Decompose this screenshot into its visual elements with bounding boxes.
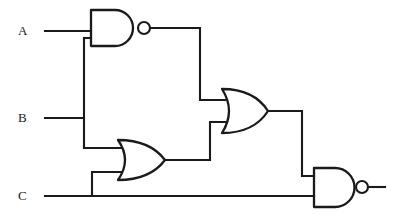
input-label-b: B (18, 111, 27, 124)
nand-gate-1-inversion-bubble (138, 22, 150, 34)
or1-out-wire (165, 122, 226, 160)
input-label-a: A (18, 24, 28, 37)
or-gate-2-body (222, 89, 268, 133)
nand1-out-wire (150, 28, 225, 100)
or-gate-1-body (118, 140, 165, 180)
or2-out-wire (268, 111, 314, 176)
c-to-or1-wire (92, 172, 122, 196)
circuit-schematic-svg (0, 0, 401, 219)
nand-gate-2-inversion-bubble (356, 181, 368, 193)
nand-gate-2-body (314, 168, 355, 207)
logic-circuit-diagram: A B C (0, 0, 401, 219)
nand-gate-1-body (91, 10, 133, 46)
input-label-c: C (18, 189, 27, 202)
